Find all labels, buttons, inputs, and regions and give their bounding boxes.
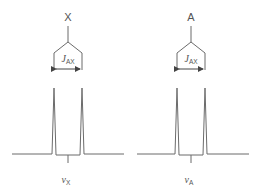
doublet-a: A JAX νA <box>137 11 249 186</box>
nmr-diagram: X JAX νX A JAX νA <box>0 0 258 195</box>
coupling-label: JAX <box>184 53 198 65</box>
shift-label-x: νX <box>62 174 71 186</box>
coupling-label: JAX <box>61 53 75 65</box>
splitting-tree <box>177 42 205 70</box>
doublet-x: X JAX νX <box>12 11 124 186</box>
shift-label-a: νA <box>185 174 194 186</box>
nucleus-label-x: X <box>64 11 72 23</box>
spectrum-trace-x <box>12 88 124 155</box>
spectrum-trace-a <box>137 88 249 155</box>
splitting-tree <box>54 42 82 70</box>
nucleus-label-a: A <box>187 11 195 23</box>
